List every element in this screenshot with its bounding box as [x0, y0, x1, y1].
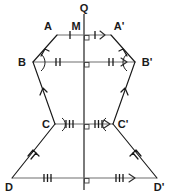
right-angle-at-D-line [85, 179, 90, 184]
label-vertex-A: A [44, 20, 52, 32]
label-vertex-Bprime: B' [142, 56, 153, 68]
reflection-diagram-canvas: Q A M A' B B' C C' D D' [0, 0, 172, 195]
connector-arrowheads-group [100, 31, 135, 182]
label-vertex-Aprime: A' [114, 20, 125, 32]
geometry-figure: Q A M A' B B' C C' D D' [0, 0, 172, 195]
label-vertex-B: B [18, 56, 26, 68]
right-angle-at-B-line [85, 63, 90, 68]
label-vertex-M: M [71, 20, 80, 32]
label-vertex-C: C [42, 118, 50, 130]
edge-Bprime-Cprime [113, 62, 135, 124]
labels-group: Q A M A' B B' C C' D D' [5, 2, 165, 193]
right-angle-at-C-line [85, 125, 90, 130]
edge-mark-C-D-2 [31, 153, 39, 159]
label-vertex-Cprime: C' [118, 118, 129, 130]
label-vertex-Dprime: D' [154, 181, 165, 193]
label-axis-Q: Q [80, 2, 89, 14]
label-vertex-D: D [5, 181, 13, 193]
edge-B-C [33, 62, 55, 124]
right-angle-markers-group [85, 36, 90, 184]
right-angle-at-M [85, 36, 90, 41]
